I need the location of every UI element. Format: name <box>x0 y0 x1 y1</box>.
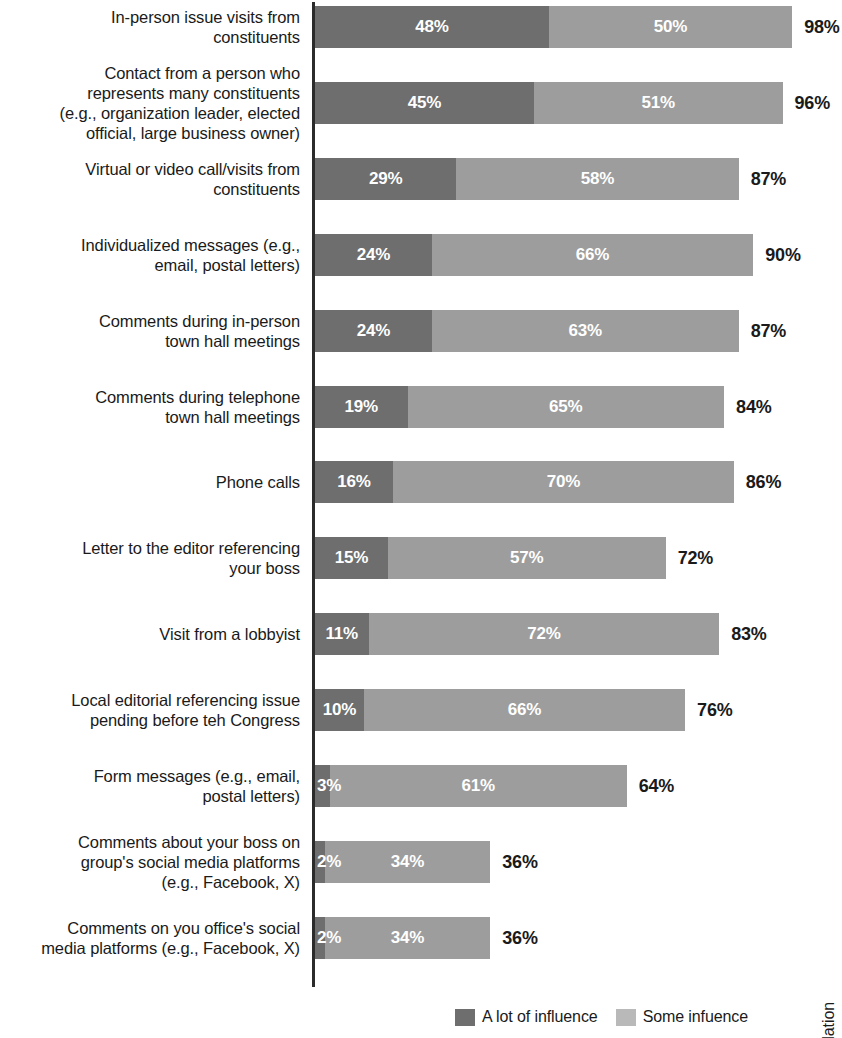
plot-area: In-person issue visits from constituents… <box>0 0 795 992</box>
segment-value-label: 48% <box>415 17 448 37</box>
bar-segment-some-influence: 70% <box>393 461 734 503</box>
segment-value-label: 72% <box>527 624 560 644</box>
segment-value-label: 16% <box>337 472 370 492</box>
stacked-bar: 45%51% <box>315 82 783 124</box>
segment-value-label: 61% <box>461 776 494 796</box>
bar-total-label: 36% <box>502 851 537 872</box>
segment-value-label: 10% <box>323 700 356 720</box>
bar-total-label: 72% <box>678 548 713 569</box>
bar-segment-some-influence: 34% <box>325 917 491 959</box>
chart-row: Virtual or video call/visits from consti… <box>0 158 795 200</box>
bar-segment-a-lot-of-influence: 3% <box>315 765 330 807</box>
stacked-bar: 48%50% <box>315 6 792 48</box>
bar-segment-a-lot-of-influence: 24% <box>315 234 432 276</box>
stacked-bar: 29%58% <box>315 158 739 200</box>
stacked-bar: 16%70% <box>315 461 734 503</box>
segment-value-label: 24% <box>357 321 390 341</box>
chart-row: Comments during telephone town hall meet… <box>0 386 795 428</box>
bar-segment-a-lot-of-influence: 16% <box>315 461 393 503</box>
category-label: Form messages (e.g., email, postal lette… <box>0 766 300 806</box>
bar-total-label: 96% <box>795 92 830 113</box>
stacked-bar: 2%34% <box>315 917 490 959</box>
bar-total-label: 83% <box>731 624 766 645</box>
chart-row: Comments about your boss on group's soci… <box>0 841 795 883</box>
stacked-bar: 2%34% <box>315 841 490 883</box>
bar-total-label: 36% <box>502 927 537 948</box>
category-label: Contact from a person who represents man… <box>0 63 300 143</box>
bar-segment-some-influence: 72% <box>369 613 720 655</box>
bar-segment-a-lot-of-influence: 29% <box>315 158 456 200</box>
segment-value-label: 3% <box>315 776 341 796</box>
chart-row: In-person issue visits from constituents… <box>0 6 795 48</box>
category-label: Comments about your boss on group's soci… <box>0 832 300 892</box>
segment-value-label: 11% <box>326 624 359 644</box>
bar-segment-a-lot-of-influence: 15% <box>315 537 388 579</box>
stacked-bar: 24%63% <box>315 310 739 352</box>
chart-row: Form messages (e.g., email, postal lette… <box>0 765 795 807</box>
bar-total-label: 64% <box>639 776 674 797</box>
chart-row: Contact from a person who represents man… <box>0 82 795 124</box>
category-label: In-person issue visits from constituents <box>0 7 300 47</box>
segment-value-label: 2% <box>315 852 341 872</box>
segment-value-label: 63% <box>569 321 602 341</box>
bar-segment-a-lot-of-influence: 11% <box>315 613 369 655</box>
chart-row: Visit from a lobbyist11%72%83% <box>0 613 795 655</box>
bar-segment-a-lot-of-influence: 24% <box>315 310 432 352</box>
bar-segment-some-influence: 58% <box>456 158 738 200</box>
bar-segment-a-lot-of-influence: 2% <box>315 917 325 959</box>
segment-value-label: 66% <box>508 700 541 720</box>
category-label: Virtual or video call/visits from consti… <box>0 159 300 199</box>
bar-total-label: 76% <box>697 700 732 721</box>
chart-row: Comments during in-person town hall meet… <box>0 310 795 352</box>
segment-value-label: 58% <box>581 169 614 189</box>
chart-row: Comments on you office's social media pl… <box>0 917 795 959</box>
bar-total-label: 87% <box>751 320 786 341</box>
bar-total-label: 86% <box>746 472 781 493</box>
segment-value-label: 70% <box>547 472 580 492</box>
stacked-bar: 3%61% <box>315 765 627 807</box>
stacked-bar: 24%66% <box>315 234 753 276</box>
bar-segment-a-lot-of-influence: 45% <box>315 82 534 124</box>
category-label: Visit from a lobbyist <box>0 624 300 644</box>
category-label: Local editorial referencing issue pendin… <box>0 690 300 730</box>
category-label: Comments during in-person town hall meet… <box>0 311 300 351</box>
legend-label: A lot of influence <box>482 1008 598 1026</box>
bar-segment-a-lot-of-influence: 10% <box>315 689 364 731</box>
bar-segment-some-influence: 66% <box>432 234 753 276</box>
stacked-bar: 10%66% <box>315 689 685 731</box>
chart-row: Phone calls16%70%86% <box>0 461 795 503</box>
legend-swatch-icon <box>455 1009 475 1026</box>
bar-total-label: 87% <box>751 168 786 189</box>
segment-value-label: 50% <box>654 17 687 37</box>
segment-value-label: 19% <box>345 397 378 417</box>
category-label: Letter to the editor referencing your bo… <box>0 538 300 578</box>
category-label: Comments during telephone town hall meet… <box>0 387 300 427</box>
bar-segment-some-influence: 63% <box>432 310 739 352</box>
legend-item-a-lot-of-influence: A lot of influence <box>455 1008 598 1026</box>
legend-label: Some infuence <box>643 1008 748 1026</box>
chart-row: Letter to the editor referencing your bo… <box>0 537 795 579</box>
bar-segment-a-lot-of-influence: 48% <box>315 6 549 48</box>
segment-value-label: 2% <box>315 928 341 948</box>
category-label: Comments on you office's social media pl… <box>0 918 300 958</box>
chart-row: Local editorial referencing issue pendin… <box>0 689 795 731</box>
segment-value-label: 51% <box>642 93 675 113</box>
bar-segment-some-influence: 66% <box>364 689 685 731</box>
segment-value-label: 57% <box>510 548 543 568</box>
category-label: Phone calls <box>0 472 300 492</box>
chart-legend: A lot of influence Some infuence <box>455 1008 748 1026</box>
stacked-bar-chart: In-person issue visits from constituents… <box>0 0 842 1038</box>
source-credit: Source: Congressional Management Foundat… <box>820 1002 838 1038</box>
stacked-bar: 11%72% <box>315 613 719 655</box>
bar-segment-a-lot-of-influence: 19% <box>315 386 408 428</box>
stacked-bar: 15%57% <box>315 537 666 579</box>
segment-value-label: 66% <box>576 245 609 265</box>
bar-total-label: 84% <box>736 396 771 417</box>
stacked-bar: 19%65% <box>315 386 724 428</box>
bar-segment-some-influence: 34% <box>325 841 491 883</box>
chart-row: Individualized messages (e.g., email, po… <box>0 234 795 276</box>
bar-segment-some-influence: 51% <box>534 82 782 124</box>
segment-value-label: 24% <box>357 245 390 265</box>
bar-segment-some-influence: 50% <box>549 6 793 48</box>
legend-item-some-influence: Some infuence <box>616 1008 748 1026</box>
